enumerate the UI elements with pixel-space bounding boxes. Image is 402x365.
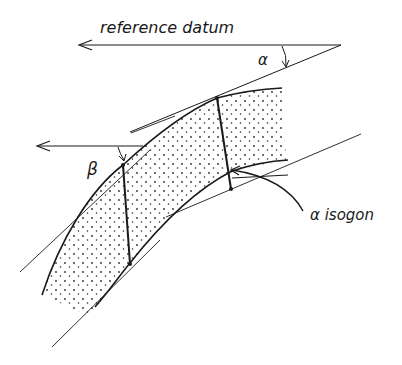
beta-label: β [86, 159, 98, 179]
isogon-node [128, 262, 132, 266]
isogon-node [121, 163, 125, 167]
folded-layer [42, 88, 286, 315]
reference-datum-label: reference datum [100, 18, 234, 37]
fold-diagram: α reference datum β α isogon [0, 0, 402, 365]
diagram-canvas: α reference datum β α isogon [0, 0, 402, 365]
isogon-node [215, 96, 219, 100]
isogon-node [229, 187, 233, 191]
alpha-isogon-label: α isogon [310, 206, 374, 224]
alpha-angle-arc [282, 46, 286, 66]
alpha-arc-arrowhead [282, 60, 289, 67]
alpha-label: α [258, 51, 268, 69]
